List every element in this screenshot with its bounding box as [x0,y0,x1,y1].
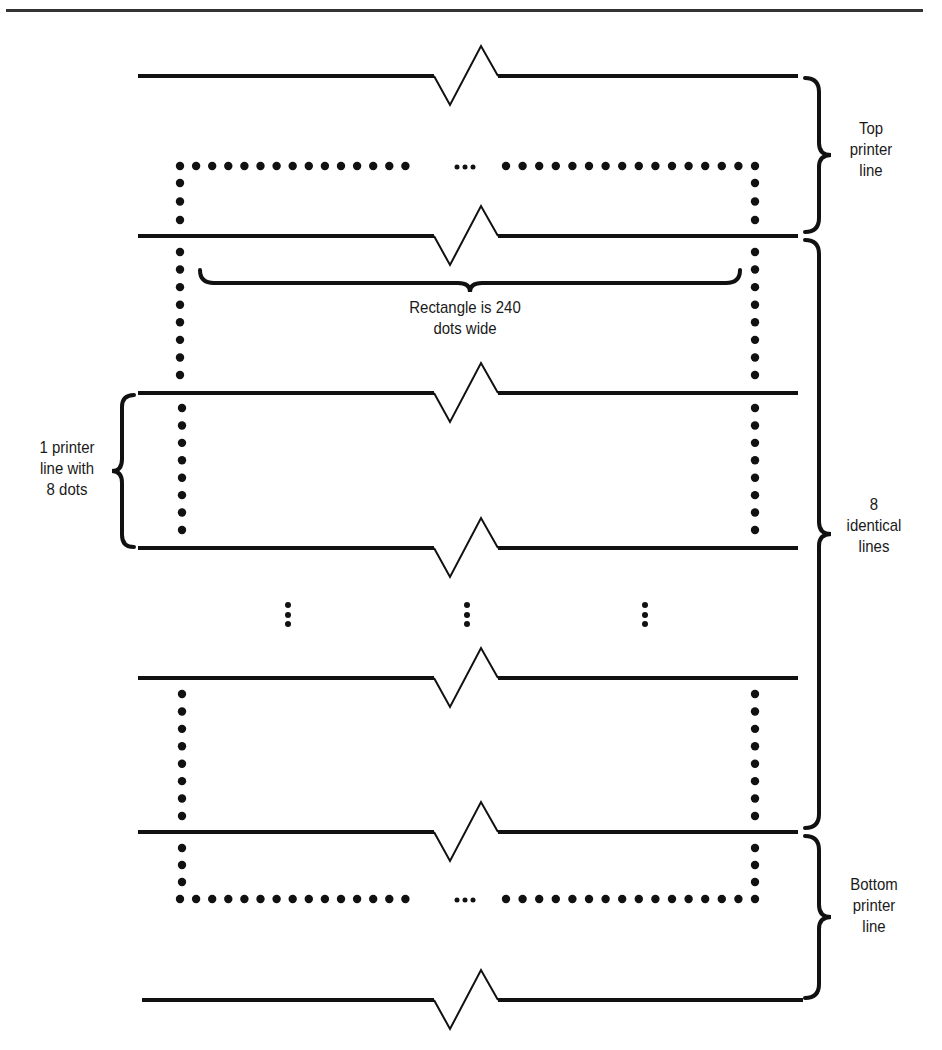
print-dot [176,371,184,379]
print-dot [178,725,186,733]
label-line: Rectangle is 240 [381,297,548,318]
print-dot [751,707,759,715]
line-break-zigzag [434,970,498,1029]
print-dot [751,760,759,768]
print-dot [718,162,726,170]
print-dot [601,895,609,903]
print-dot [464,612,470,618]
print-dot [734,162,742,170]
print-dot [751,508,759,516]
brace-identical-lines-icon [805,240,831,828]
label-line: 1 printer [27,437,106,458]
print-dot [208,895,216,903]
print-dot [176,895,184,903]
label-line: Bottom [839,874,909,895]
print-dot [256,895,264,903]
print-dot [651,895,659,903]
print-dot [464,602,470,608]
brace-rectangle-width-icon [200,270,740,292]
print-dot [751,777,759,785]
print-dot [535,162,543,170]
print-dot [353,162,361,170]
print-dot [178,439,186,447]
print-dot [751,690,759,698]
print-dot [178,508,186,516]
line-break-zigzag [434,518,498,577]
print-dot [568,162,576,170]
print-dot [684,162,692,170]
print-dot [178,812,186,820]
print-dot [585,162,593,170]
print-dot [463,165,468,170]
print-dot [176,248,184,256]
print-dot [178,844,186,852]
print-dot [751,456,759,464]
print-dot [751,474,759,482]
label-line: identical [839,515,909,536]
print-dot [208,162,216,170]
print-dot [321,895,329,903]
print-dot [518,895,526,903]
print-dot [751,742,759,750]
label-line: printer [840,139,902,160]
print-dot [178,794,186,802]
print-dot [256,162,264,170]
print-dot [518,162,526,170]
print-dot [178,526,186,534]
print-dot [385,162,393,170]
print-dot [751,197,759,205]
print-dot [751,725,759,733]
print-dot [751,336,759,344]
line-break-zigzag [434,802,498,861]
print-dot [751,248,759,256]
line-break-zigzag [434,648,498,707]
print-dot [751,439,759,447]
print-dot [176,318,184,326]
print-dot [618,895,626,903]
label-line: dots wide [381,318,548,339]
label-line: line with [27,458,106,479]
print-dot [455,898,460,903]
label-one-printer-line-eight-dots: 1 printer line with 8 dots [27,437,106,500]
label-top-printer-line: Top printer line [840,118,902,181]
print-dot [178,777,186,785]
print-dot [635,162,643,170]
print-dot [751,371,759,379]
print-dot [176,336,184,344]
print-dot [272,895,280,903]
print-dot [176,265,184,273]
print-dot [176,162,184,170]
label-line: 8 [839,494,909,515]
print-dot [224,162,232,170]
print-dot [751,318,759,326]
print-dot [178,707,186,715]
print-dot [178,742,186,750]
label-line: line [840,160,902,181]
print-dot [642,621,648,627]
print-dot [178,878,186,886]
print-dot [176,197,184,205]
print-dot [463,898,468,903]
print-dot [751,491,759,499]
print-dot [178,690,186,698]
print-dot [751,844,759,852]
print-dot [635,895,643,903]
print-dot [305,162,313,170]
label-identical-lines: 8 identical lines [839,494,909,557]
print-dot [751,216,759,224]
print-dot [178,404,186,412]
print-dot [651,162,659,170]
print-dot [535,895,543,903]
print-dot [176,301,184,309]
print-dot [178,760,186,768]
print-dot [305,895,313,903]
rectangle-dots [176,162,759,903]
print-dot [618,162,626,170]
print-dot [601,162,609,170]
print-dot [668,162,676,170]
print-dot [369,162,377,170]
print-dot [192,162,200,170]
print-dot [568,895,576,903]
print-dot [585,895,593,903]
print-dot [751,353,759,361]
